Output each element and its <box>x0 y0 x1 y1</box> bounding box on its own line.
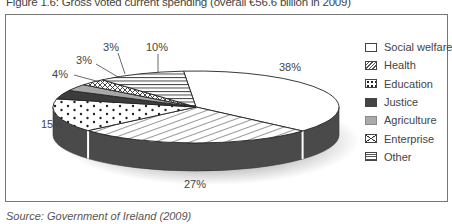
figure-source: Source: Government of Ireland (2009) <box>6 210 191 222</box>
leader-line <box>118 53 125 74</box>
value-label-education: 15% <box>41 118 63 130</box>
legend-item-agriculture: Agriculture <box>365 111 452 129</box>
diagonal-hatch-swatch-icon <box>365 61 377 70</box>
blank-swatch-icon <box>365 43 377 52</box>
value-label-enterprise: 3% <box>103 41 119 53</box>
legend-item-other: Other <box>365 148 452 166</box>
solid-dark-swatch-icon <box>365 98 377 107</box>
value-label-agriculture: 3% <box>76 54 92 66</box>
horizontal-lines-swatch-icon <box>365 152 377 161</box>
legend-item-education: Education <box>365 75 452 93</box>
cross-hatch-swatch-icon <box>365 134 377 143</box>
value-label-social-welfare: 38% <box>279 61 301 73</box>
legend-item-health: Health <box>365 56 452 74</box>
legend-item-social-welfare: Social welfare <box>365 38 452 56</box>
legend-item-justice: Justice <box>365 93 452 111</box>
dots-swatch-icon <box>365 79 377 88</box>
value-label-health: 27% <box>184 178 206 190</box>
leader-line <box>74 75 100 82</box>
value-label-other: 10% <box>146 41 168 53</box>
leader-line <box>96 64 118 77</box>
solid-grey-swatch-icon <box>365 116 377 125</box>
value-label-justice: 4% <box>52 68 68 80</box>
chart-legend: Social welfare Health Education Justice … <box>365 38 452 166</box>
legend-item-enterprise: Enterprise <box>365 129 452 147</box>
